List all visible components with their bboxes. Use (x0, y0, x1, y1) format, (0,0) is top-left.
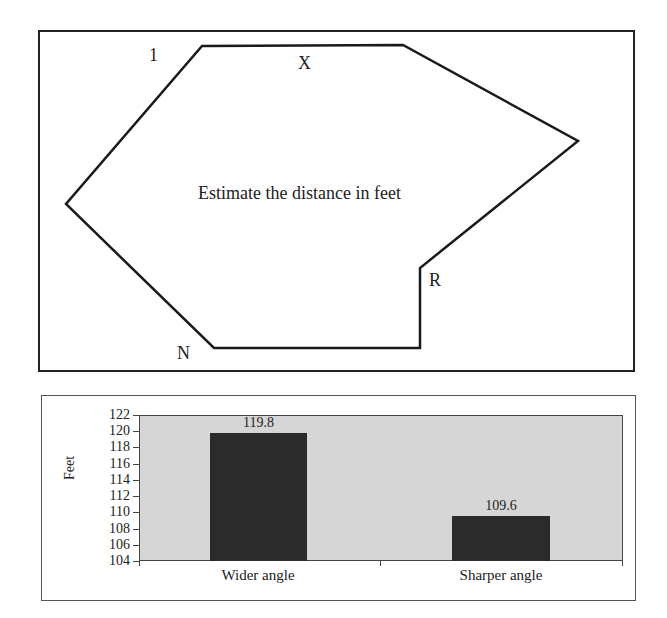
data-label-wider-angle: 119.8 (209, 415, 309, 431)
y-tick-mark (133, 480, 139, 481)
y-axis-label: Feet (62, 456, 78, 480)
x-category-wider-angle: Wider angle (178, 567, 338, 584)
y-tick-label: 112 (96, 489, 130, 503)
vertex-label-1: 1 (149, 45, 158, 66)
bar-wider-angle (210, 433, 307, 561)
vertex-label-r: R (429, 270, 441, 291)
x-tick-mark (622, 561, 623, 566)
vertex-label-n: N (177, 343, 190, 364)
y-tick-label: 120 (96, 424, 130, 438)
y-tick-label: 122 (96, 408, 130, 422)
y-tick-label: 106 (96, 538, 130, 552)
y-tick-mark (133, 545, 139, 546)
y-tick-label: 114 (96, 473, 130, 487)
y-tick-mark (133, 464, 139, 465)
y-tick-mark (133, 447, 139, 448)
data-label-sharper-angle: 109.6 (451, 498, 551, 514)
instruction-text: Estimate the distance in feet (198, 183, 401, 204)
x-category-sharper-angle: Sharper angle (421, 567, 581, 584)
y-tick-label: 104 (96, 554, 130, 568)
y-tick-label: 108 (96, 522, 130, 536)
y-tick-label: 110 (96, 505, 130, 519)
vertex-label-x: X (298, 53, 311, 74)
y-tick-mark (133, 496, 139, 497)
x-tick-mark (139, 561, 140, 566)
y-tick-mark (133, 431, 139, 432)
y-tick-mark (133, 415, 139, 416)
y-tick-label: 116 (96, 457, 130, 471)
y-tick-mark (133, 512, 139, 513)
bar-sharper-angle (452, 516, 550, 561)
y-tick-mark (133, 529, 139, 530)
y-tick-label: 118 (96, 440, 130, 454)
x-tick-mark (380, 561, 381, 566)
